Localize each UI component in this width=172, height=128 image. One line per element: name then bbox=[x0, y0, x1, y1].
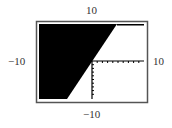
xmin-label: −10 bbox=[8, 55, 25, 67]
xmax-label: 10 bbox=[153, 55, 164, 67]
top-edge-line bbox=[117, 24, 144, 26]
ymax-label: 10 bbox=[86, 4, 97, 16]
ymin-label: −10 bbox=[83, 108, 100, 120]
